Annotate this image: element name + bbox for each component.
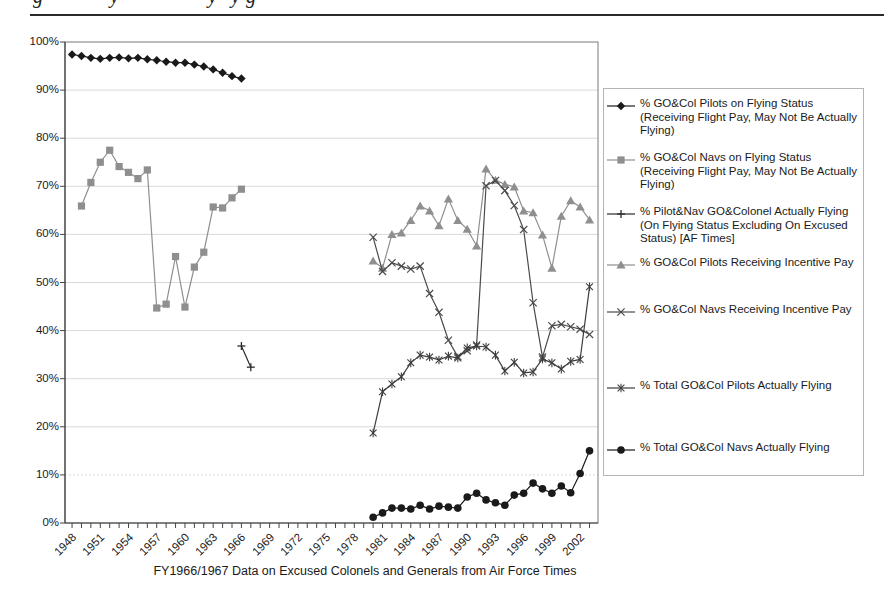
y-tick-label: 0%	[13, 516, 59, 528]
circle-marker	[379, 509, 387, 517]
circle-marker	[558, 482, 566, 490]
square-marker	[78, 202, 85, 209]
circle-marker	[435, 502, 443, 510]
circle-marker	[501, 501, 509, 509]
legend-item-square: % GO&Col Navs on Flying Status (Receivin…	[607, 151, 860, 192]
circle-legend-icon	[607, 443, 635, 457]
series-plus	[237, 342, 254, 371]
circle-marker	[388, 504, 396, 512]
square-marker	[219, 204, 226, 211]
legend-item-plus: % Pilot&Nav GO&Colonel Actually Flying (…	[607, 205, 860, 246]
triangle-marker	[425, 206, 434, 214]
triangle-marker	[397, 229, 406, 237]
square-marker	[115, 163, 122, 170]
legend-label: % GO&Col Navs on Flying Status (Receivin…	[640, 151, 860, 192]
legend-item-circle: % Total GO&Col Navs Actually Flying	[607, 441, 860, 457]
asterisk-legend-icon	[607, 381, 635, 395]
y-tick-label: 70%	[13, 179, 59, 191]
diamond-marker	[209, 65, 217, 73]
circle-marker	[492, 499, 500, 507]
chart-legend: % GO&Col Pilots on Flying Status (Receiv…	[603, 88, 864, 476]
legend-item-x: % GO&Col Navs Receiving Incentive Pay	[607, 303, 860, 319]
diamond-marker	[96, 55, 104, 63]
triangle-marker	[434, 221, 443, 229]
legend-label: % GO&Col Pilots Receiving Incentive Pay	[640, 256, 853, 270]
square-marker	[238, 186, 245, 193]
figure-chart: FY1966/1967 Data on Excused Colonels and…	[0, 0, 889, 599]
triangle-legend-icon	[607, 258, 635, 272]
series-line	[373, 451, 589, 517]
y-tick-label: 40%	[13, 324, 59, 336]
diamond-marker	[124, 54, 132, 62]
triangle-marker	[519, 206, 528, 214]
square-marker	[181, 303, 188, 310]
diamond-marker	[115, 53, 123, 61]
circle-marker	[463, 493, 471, 501]
triangle-marker	[547, 264, 556, 272]
diamond-marker	[237, 74, 245, 82]
legend-item-triangle: % GO&Col Pilots Receiving Incentive Pay	[607, 256, 860, 272]
document-page: gyyyg FY1966/1967 Data on Excused Colone…	[0, 0, 889, 599]
diamond-marker	[153, 56, 161, 64]
legend-label: % GO&Col Pilots on Flying Status (Receiv…	[640, 97, 860, 138]
square-marker	[134, 175, 141, 182]
triangle-marker	[566, 196, 575, 204]
series-circle	[369, 447, 593, 521]
square-marker	[191, 264, 198, 271]
square-marker	[200, 249, 207, 256]
circle-marker	[567, 489, 575, 497]
triangle-marker	[557, 212, 566, 220]
series-square	[78, 147, 245, 312]
circle-marker	[482, 496, 490, 504]
diamond-marker	[190, 60, 198, 68]
circle-marker	[576, 470, 584, 478]
circle-marker	[398, 504, 406, 512]
circle-marker	[473, 489, 481, 497]
circle-marker	[369, 513, 377, 521]
triangle-marker	[481, 165, 490, 173]
circle-marker	[454, 504, 462, 512]
square-marker	[106, 147, 113, 154]
y-tick-label: 30%	[13, 372, 59, 384]
square-marker	[144, 166, 151, 173]
diamond-marker	[617, 102, 625, 110]
series-diamond	[68, 50, 246, 82]
diamond-marker	[162, 58, 170, 66]
legend-label: % Total GO&Col Navs Actually Flying	[640, 441, 830, 455]
series-asterisk	[370, 283, 593, 438]
x-legend-icon	[607, 305, 635, 319]
diamond-marker	[181, 58, 189, 66]
triangle-marker	[406, 216, 415, 224]
y-tick-label: 80%	[13, 131, 59, 143]
triangle-marker	[416, 202, 425, 210]
y-tick-label: 10%	[13, 468, 59, 480]
square-marker	[153, 304, 160, 311]
diamond-marker	[143, 55, 151, 63]
circle-marker	[426, 505, 434, 513]
diamond-marker	[77, 52, 85, 60]
series-line	[81, 150, 241, 308]
diamond-marker	[171, 58, 179, 66]
triangle-marker	[472, 242, 481, 250]
series-line	[241, 346, 250, 367]
circle-marker	[407, 505, 415, 513]
diamond-marker	[105, 54, 113, 62]
square-marker	[87, 179, 94, 186]
triangle-marker	[453, 216, 462, 224]
diamond-marker	[218, 69, 226, 77]
plus-legend-icon	[607, 207, 635, 221]
square-marker	[172, 253, 179, 260]
triangle-marker	[444, 194, 453, 202]
series-line	[373, 287, 589, 433]
y-tick-label: 50%	[13, 276, 59, 288]
square-marker	[210, 203, 217, 210]
diamond-legend-icon	[607, 99, 635, 113]
y-tick-label: 90%	[13, 83, 59, 95]
square-marker	[228, 194, 235, 201]
legend-label: % GO&Col Navs Receiving Incentive Pay	[640, 303, 852, 317]
series-line	[373, 169, 589, 268]
legend-label: % Pilot&Nav GO&Colonel Actually Flying (…	[640, 205, 860, 246]
circle-marker	[520, 489, 528, 497]
square-marker	[97, 159, 104, 166]
square-marker	[617, 156, 624, 163]
